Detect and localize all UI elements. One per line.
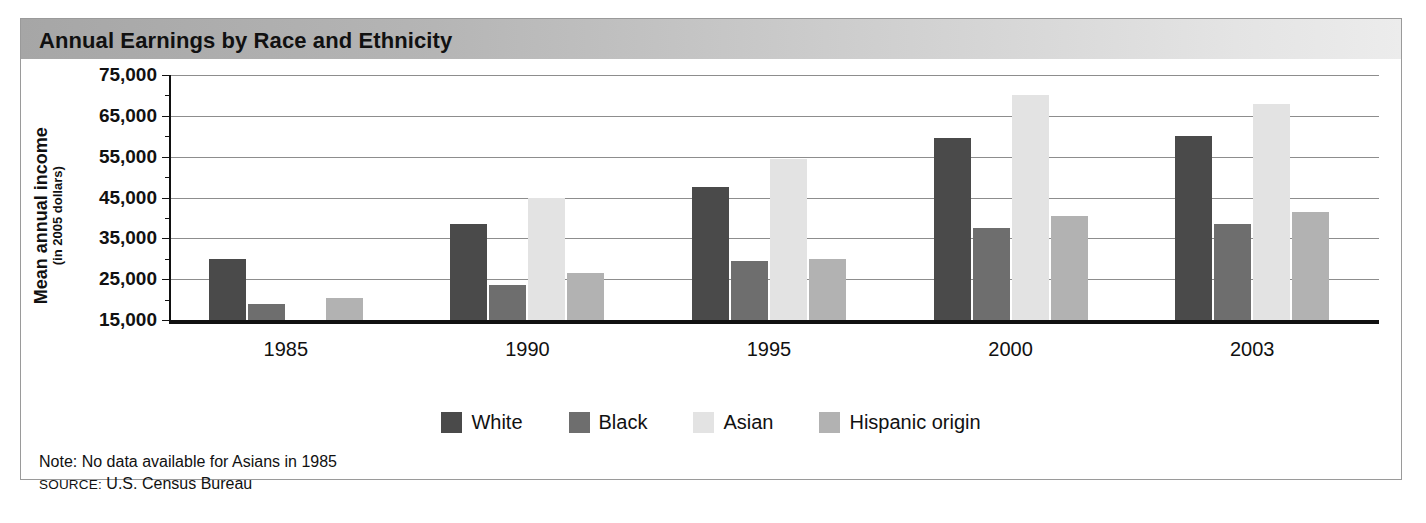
source-text: U.S. Census Bureau bbox=[102, 475, 252, 492]
bar-black-1985 bbox=[248, 304, 285, 320]
source-line: SOURCE: U.S. Census Bureau bbox=[39, 473, 337, 495]
bar-hispanic-origin-2000 bbox=[1051, 216, 1088, 320]
legend-item: Asian bbox=[693, 411, 773, 434]
y-axis-tick-label: 55,000 bbox=[65, 146, 157, 168]
legend-item: Hispanic origin bbox=[819, 411, 980, 434]
bar-asian-1990 bbox=[528, 198, 565, 321]
bar-black-1990 bbox=[489, 285, 526, 320]
bar-asian-2000 bbox=[1012, 95, 1049, 320]
bar-hispanic-origin-1990 bbox=[567, 273, 604, 320]
bar-hispanic-origin-1995 bbox=[809, 259, 846, 320]
chart-legend: WhiteBlackAsianHispanic origin bbox=[21, 411, 1401, 434]
bar-black-1995 bbox=[731, 261, 768, 320]
y-axis-tick-label: 65,000 bbox=[65, 105, 157, 127]
y-axis-tick-label: 45,000 bbox=[65, 187, 157, 209]
gridline bbox=[171, 75, 1379, 76]
legend-swatch-icon bbox=[693, 412, 714, 433]
legend-swatch-icon bbox=[569, 412, 590, 433]
bar-hispanic-origin-1985 bbox=[326, 298, 363, 320]
source-kicker: SOURCE: bbox=[39, 477, 102, 492]
legend-swatch-icon bbox=[819, 412, 840, 433]
legend-label: Black bbox=[599, 411, 648, 434]
chart-plot-area: 15,00025,00035,00045,00055,00065,00075,0… bbox=[171, 75, 1379, 320]
legend-swatch-icon bbox=[441, 412, 462, 433]
y-axis-tick-label: 15,000 bbox=[65, 309, 157, 331]
bar-black-2000 bbox=[973, 228, 1010, 320]
legend-label: Asian bbox=[723, 411, 773, 434]
x-axis-group-label: 1990 bbox=[505, 338, 550, 361]
x-axis-group-label: 1995 bbox=[747, 338, 792, 361]
y-axis-tick-label: 35,000 bbox=[65, 227, 157, 249]
figure-header-banner: Annual Earnings by Race and Ethnicity bbox=[21, 19, 1401, 59]
x-axis-group-label: 1985 bbox=[264, 338, 309, 361]
bar-white-2003 bbox=[1175, 136, 1212, 320]
x-axis-group-label: 2000 bbox=[988, 338, 1033, 361]
bar-white-2000 bbox=[934, 138, 971, 320]
y-axis-title: Mean annual income (in 2005 dollars) bbox=[32, 96, 65, 336]
bar-asian-2003 bbox=[1253, 104, 1290, 320]
note-text: Note: No data available for Asians in 19… bbox=[39, 451, 337, 473]
figure-panel: Annual Earnings by Race and Ethnicity Me… bbox=[20, 18, 1402, 480]
y-axis-title-main: Mean annual income bbox=[32, 96, 51, 336]
gridline bbox=[171, 116, 1379, 117]
bar-hispanic-origin-2003 bbox=[1292, 212, 1329, 320]
bar-white-1985 bbox=[209, 259, 246, 320]
bar-asian-1995 bbox=[770, 159, 807, 320]
page-title: Annual Earnings by Race and Ethnicity bbox=[39, 28, 452, 54]
bar-white-1990 bbox=[450, 224, 487, 320]
bar-black-2003 bbox=[1214, 224, 1251, 320]
plot-wrapper: Mean annual income (in 2005 dollars) 15,… bbox=[21, 59, 1401, 481]
legend-label: White bbox=[471, 411, 522, 434]
x-axis-group-label: 2003 bbox=[1230, 338, 1275, 361]
y-axis-tick-label: 25,000 bbox=[65, 268, 157, 290]
y-axis-line bbox=[169, 75, 171, 324]
y-axis-tick-label: 75,000 bbox=[65, 64, 157, 86]
y-axis-title-sub: (in 2005 dollars) bbox=[52, 96, 66, 336]
legend-label: Hispanic origin bbox=[849, 411, 980, 434]
legend-item: Black bbox=[569, 411, 648, 434]
legend-item: White bbox=[441, 411, 522, 434]
x-axis-line bbox=[169, 320, 1379, 324]
figure-footnotes: Note: No data available for Asians in 19… bbox=[39, 451, 337, 494]
bar-white-1995 bbox=[692, 187, 729, 320]
